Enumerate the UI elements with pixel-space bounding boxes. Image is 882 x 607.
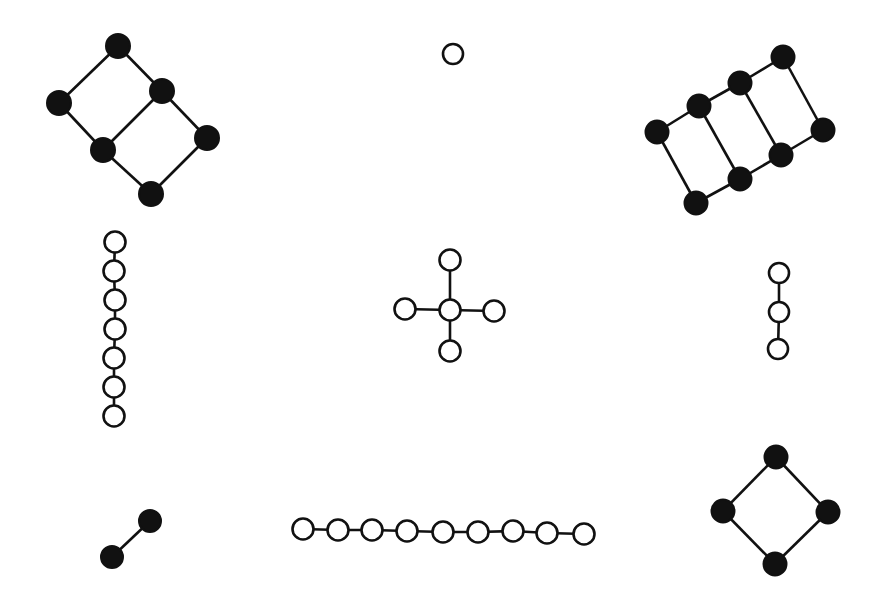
filled-vertex: [139, 510, 161, 532]
filled-vertex: [712, 500, 735, 523]
open-vertex: [574, 524, 595, 545]
filled-vertex: [47, 91, 71, 115]
filled-vertex: [770, 144, 793, 167]
graphs-layer: [47, 34, 840, 576]
filled-vertex: [772, 46, 795, 69]
graph-two-square-ladder: [47, 34, 219, 206]
open-vertex: [293, 519, 314, 540]
filled-vertex: [817, 501, 840, 524]
filled-vertex: [764, 553, 787, 576]
open-vertex: [105, 232, 126, 253]
open-vertex: [769, 263, 789, 283]
open-vertex: [395, 299, 416, 320]
graph-single-vertex: [443, 44, 463, 64]
graph-path-3: [768, 263, 789, 359]
open-vertex: [537, 523, 558, 544]
open-vertex: [440, 250, 461, 271]
open-vertex: [440, 341, 461, 362]
open-vertex: [443, 44, 463, 64]
graph-cycle-4: [712, 446, 840, 576]
filled-vertex: [101, 546, 123, 568]
filled-vertex: [765, 446, 788, 469]
graph-three-square-ladder: [646, 46, 835, 215]
open-vertex: [484, 301, 505, 322]
filled-vertex: [688, 95, 711, 118]
graph-path-9: [293, 519, 595, 545]
filled-vertex: [195, 126, 219, 150]
open-vertex: [104, 261, 125, 282]
graph-edge: [699, 106, 740, 179]
filled-vertex: [646, 121, 669, 144]
filled-vertex: [729, 168, 752, 191]
filled-vertex: [812, 119, 835, 142]
open-vertex: [397, 521, 418, 542]
filled-vertex: [729, 72, 752, 95]
open-vertex: [104, 348, 125, 369]
open-vertex: [328, 520, 349, 541]
filled-vertex: [150, 79, 174, 103]
open-vertex: [468, 522, 489, 543]
open-vertex: [440, 300, 461, 321]
open-vertex: [104, 377, 125, 398]
open-vertex: [768, 339, 788, 359]
open-vertex: [105, 319, 126, 340]
filled-vertex: [139, 182, 163, 206]
open-vertex: [503, 521, 524, 542]
open-vertex: [433, 522, 454, 543]
open-vertex: [769, 302, 789, 322]
open-vertex: [362, 520, 383, 541]
filled-vertex: [106, 34, 130, 58]
graph-star-4: [395, 250, 505, 362]
graph-diagram: [0, 0, 882, 607]
open-vertex: [105, 290, 126, 311]
filled-vertex: [91, 138, 115, 162]
filled-vertex: [685, 192, 708, 215]
graph-path-7: [104, 232, 126, 427]
graph-single-edge: [101, 510, 161, 568]
open-vertex: [104, 406, 125, 427]
